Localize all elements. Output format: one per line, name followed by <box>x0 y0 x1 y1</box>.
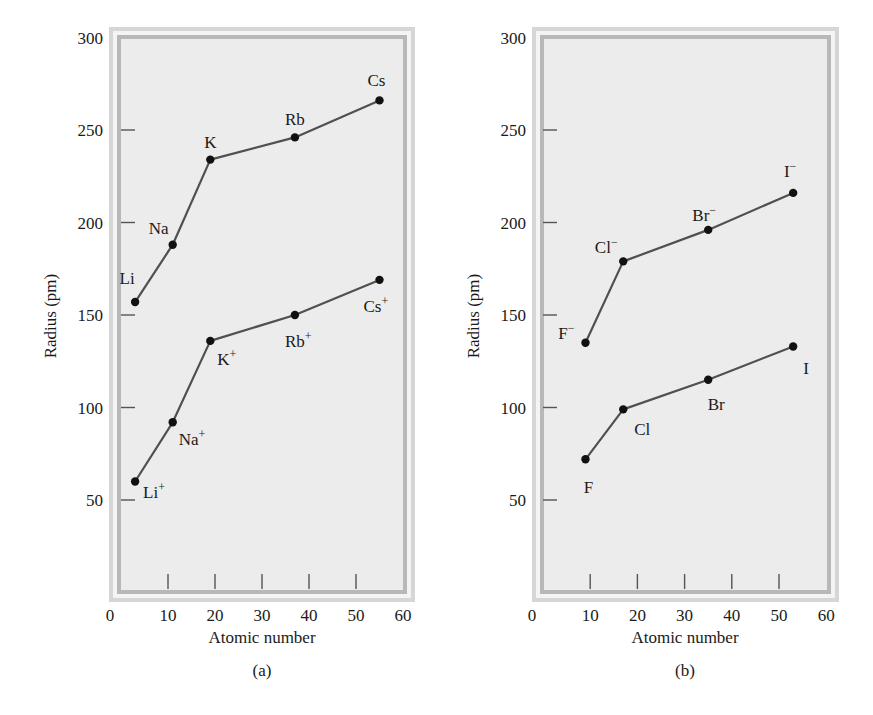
data-point-label: Cl <box>634 420 650 439</box>
chart-panel-b: 50100150200250300 0102030405060 F−Cl−Br−… <box>464 27 839 680</box>
panel-caption: (b) <box>675 661 695 680</box>
figure-canvas: 50100150200250300 0102030405060 LiNaKRbC… <box>0 0 873 715</box>
x-tick-label: 40 <box>301 606 318 625</box>
y-tick-label: 50 <box>509 491 526 510</box>
data-point-marker <box>789 342 797 350</box>
x-tick-label: 30 <box>254 606 271 625</box>
data-point-label: Na <box>149 219 169 238</box>
x-tick-label: 10 <box>582 606 599 625</box>
x-tick-label: 0 <box>528 606 537 625</box>
x-tick-label: 50 <box>348 606 365 625</box>
data-point-marker <box>375 276 383 284</box>
data-point-marker <box>704 376 712 384</box>
data-point-marker <box>375 96 383 104</box>
data-point-label: F <box>584 478 593 497</box>
data-point-marker <box>131 477 139 485</box>
x-tick-label: 20 <box>629 606 646 625</box>
data-point-marker <box>704 226 712 234</box>
x-tick-label: 0 <box>106 606 115 625</box>
x-tick-label: 20 <box>207 606 224 625</box>
plot-area <box>121 39 403 590</box>
data-point-marker <box>169 241 177 249</box>
y-tick-label: 200 <box>78 214 104 233</box>
y-tick-label: 150 <box>501 306 527 325</box>
y-tick-label: 250 <box>78 121 104 140</box>
y-tick-label: 150 <box>78 306 104 325</box>
chart-panel-a: 50100150200250300 0102030405060 LiNaKRbC… <box>41 27 415 680</box>
data-point-label: K <box>204 133 217 152</box>
data-point-label: Br <box>708 395 725 414</box>
y-tick-label: 50 <box>86 491 103 510</box>
y-tick-label: 200 <box>501 214 527 233</box>
y-tick-label: 100 <box>501 399 527 418</box>
plot-area <box>544 39 827 590</box>
data-point-marker <box>206 337 214 345</box>
data-point-marker <box>619 257 627 265</box>
data-point-label: Li <box>120 269 135 288</box>
data-point-marker <box>291 133 299 141</box>
y-tick-label: 250 <box>501 121 527 140</box>
data-point-marker <box>581 455 589 463</box>
data-point-marker <box>206 155 214 163</box>
data-point-marker <box>789 189 797 197</box>
y-axis-title: Radius (pm) <box>41 274 60 359</box>
data-point-marker <box>291 311 299 319</box>
data-point-label: Rb <box>285 110 305 129</box>
x-tick-label: 40 <box>723 606 740 625</box>
y-axis-tick-labels: 50100150200250300 <box>501 29 527 511</box>
x-axis-tick-labels: 0102030405060 <box>106 606 412 625</box>
x-tick-label: 60 <box>395 606 412 625</box>
x-axis-title: Atomic number <box>631 628 739 647</box>
x-tick-label: 50 <box>771 606 788 625</box>
y-tick-label: 100 <box>78 399 104 418</box>
data-point-label: I <box>803 359 809 378</box>
y-tick-label: 300 <box>78 29 104 48</box>
data-point-marker <box>169 418 177 426</box>
x-axis-tick-labels: 0102030405060 <box>528 606 835 625</box>
y-axis-title: Radius (pm) <box>464 274 483 359</box>
data-point-marker <box>581 339 589 347</box>
y-tick-label: 300 <box>501 29 527 48</box>
x-tick-label: 10 <box>160 606 177 625</box>
data-point-label: Cs <box>368 71 386 90</box>
x-tick-label: 60 <box>818 606 835 625</box>
data-point-marker <box>131 298 139 306</box>
data-point-marker <box>619 405 627 413</box>
x-tick-label: 30 <box>676 606 693 625</box>
panel-caption: (a) <box>253 661 272 680</box>
y-axis-tick-labels: 50100150200250300 <box>78 29 104 511</box>
x-axis-title: Atomic number <box>208 628 316 647</box>
